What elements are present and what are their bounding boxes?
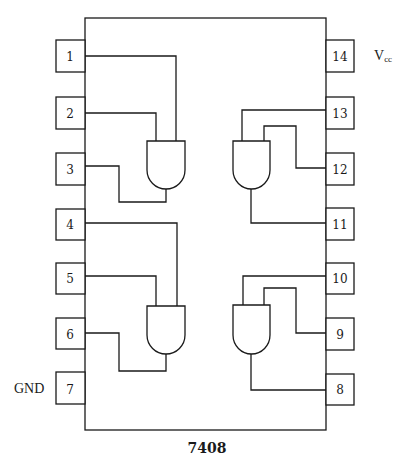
chip-body — [85, 18, 326, 430]
pin-number: 7 — [66, 383, 74, 397]
pin-number: 9 — [336, 328, 344, 342]
pin-number: 8 — [336, 383, 344, 397]
pin-number: 2 — [66, 107, 74, 121]
and-gate-symbol — [147, 141, 185, 189]
pin-number: 14 — [332, 50, 348, 64]
pin-number: 10 — [332, 272, 347, 286]
gnd-label: GND — [14, 381, 44, 396]
wire-pin4 — [85, 223, 177, 306]
pin-number: 3 — [66, 163, 74, 177]
pin-6: 6 — [56, 318, 85, 349]
wire-pin8 — [251, 354, 326, 390]
and-gate-1 — [85, 56, 185, 202]
wire-pin5 — [85, 276, 156, 306]
pin-number: 4 — [66, 218, 74, 232]
pin-11: 11 — [326, 208, 354, 240]
part-number-label: 7408 — [188, 440, 227, 456]
pin-number: 13 — [332, 107, 347, 121]
right-pins: 14 13 12 11 10 9 8 — [326, 40, 354, 405]
pin-12: 12 — [326, 153, 354, 185]
wire-pin1 — [85, 56, 176, 141]
pin-number: 11 — [332, 218, 347, 232]
pin-1: 1 — [56, 40, 85, 72]
and-gate-4 — [233, 276, 326, 390]
pin-9: 9 — [326, 318, 354, 350]
pin-number: 5 — [66, 272, 74, 286]
wire-pin2 — [85, 113, 156, 141]
wire-pin10 — [243, 276, 326, 305]
pin-7: 7 — [56, 372, 85, 404]
vcc-label: Vcc — [374, 48, 392, 64]
wire-pin12 — [264, 126, 326, 168]
pin-13: 13 — [326, 97, 354, 129]
and-gate-2 — [233, 110, 326, 223]
and-gate-3 — [85, 223, 185, 371]
pin-2: 2 — [56, 97, 85, 129]
pin-3: 3 — [56, 153, 85, 185]
ic-7408-pinout-diagram: 1 2 3 4 5 6 7 14 — [0, 0, 408, 465]
pin-14: 14 — [326, 40, 354, 72]
pin-5: 5 — [56, 263, 85, 294]
and-gate-symbol — [233, 305, 270, 354]
wire-pin9 — [264, 288, 326, 333]
left-pins: 1 2 3 4 5 6 7 — [56, 40, 85, 404]
pin-4: 4 — [56, 209, 85, 240]
pin-number: 1 — [66, 50, 74, 64]
pin-10: 10 — [326, 263, 354, 294]
and-gate-symbol — [147, 306, 185, 354]
and-gate-symbol — [233, 141, 270, 189]
wire-pin11 — [251, 189, 326, 223]
pin-number: 12 — [332, 163, 347, 177]
pin-8: 8 — [326, 374, 354, 405]
pin-number: 6 — [66, 328, 74, 342]
